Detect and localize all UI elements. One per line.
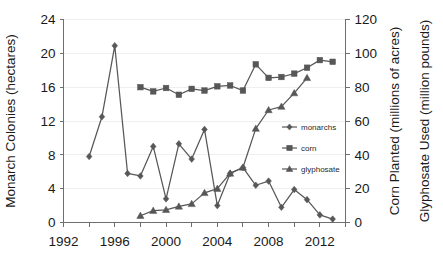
x-axis-tick-label: 2012 bbox=[305, 234, 335, 249]
y2-axis-title-glyphosate: Glyphosate Used (million pounds) bbox=[417, 20, 432, 223]
x-axis-tick-label: 1992 bbox=[48, 234, 78, 249]
y2-axis-tick-label: 120 bbox=[355, 12, 378, 27]
x-axis-tick-label: 2008 bbox=[254, 234, 284, 249]
y2-axis-tick-label: 0 bbox=[355, 215, 363, 230]
chart-plot-area: 0481216202402040608010012019921996200020… bbox=[0, 0, 443, 267]
x-axis-tick-label: 2004 bbox=[202, 234, 233, 249]
series-monarchs bbox=[86, 42, 335, 222]
legend-label: monarchs bbox=[301, 123, 336, 132]
y2-axis-tick-label: 60 bbox=[355, 114, 370, 129]
y-axis-tick-label: 4 bbox=[48, 181, 56, 196]
y-axis-title: Monarch Colonies (hectares) bbox=[3, 34, 18, 207]
series-glyphosate bbox=[137, 74, 311, 218]
y-axis-tick-label: 16 bbox=[40, 80, 55, 95]
y-axis-tick-label: 0 bbox=[48, 215, 56, 230]
y-axis-tick-label: 20 bbox=[40, 46, 55, 61]
legend-item-monarchs[interactable]: monarchs bbox=[282, 123, 336, 132]
chart-series-layer bbox=[86, 42, 335, 222]
y2-axis-tick-label: 40 bbox=[355, 148, 370, 163]
x-axis-tick-label: 2000 bbox=[151, 234, 181, 249]
y2-axis-tick-label: 80 bbox=[355, 80, 370, 95]
legend-label: corn bbox=[301, 144, 317, 153]
legend-label: glyphosate bbox=[301, 165, 340, 174]
chart-container: 0481216202402040608010012019921996200020… bbox=[0, 0, 443, 267]
y-axis-tick-label: 12 bbox=[40, 114, 55, 129]
y2-axis-title-corn: Corn Planted (millions of acres) bbox=[387, 27, 402, 215]
y-axis-tick-label: 8 bbox=[48, 148, 56, 163]
y2-axis-tick-label: 20 bbox=[355, 181, 370, 196]
chart-gridlines bbox=[64, 20, 346, 189]
y2-axis-tick-label: 100 bbox=[355, 46, 378, 61]
legend-item-glyphosate[interactable]: glyphosate bbox=[282, 165, 340, 174]
chart-legend: monarchscornglyphosate bbox=[282, 123, 340, 174]
x-axis-tick-label: 1996 bbox=[100, 234, 130, 249]
legend-item-corn[interactable]: corn bbox=[282, 144, 317, 153]
y-axis-tick-label: 24 bbox=[40, 12, 56, 27]
